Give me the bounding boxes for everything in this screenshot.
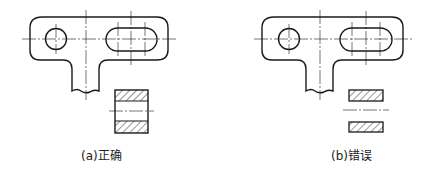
section-view-b [343, 90, 389, 132]
figure-a [22, 10, 176, 133]
caption-figure-b: (b)错误 [331, 146, 372, 163]
figure-b [254, 10, 412, 132]
section-view-a [109, 90, 154, 133]
slot-a [106, 28, 157, 51]
caption-figure-a: (a)正确 [81, 146, 122, 163]
